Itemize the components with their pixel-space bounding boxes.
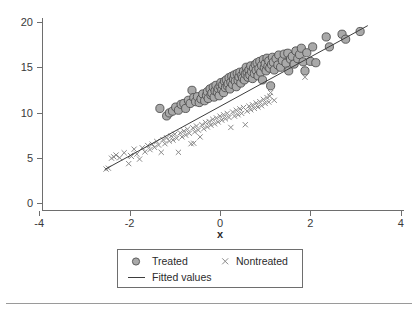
y-axis-ticks: 05101520 <box>21 16 43 209</box>
legend-label-nontreated: Nontreated <box>236 255 288 267</box>
plot-canvas: 05101520 -4-2024 x Treated Nontreated Fi… <box>0 0 418 313</box>
data-point-nontreated <box>268 90 273 95</box>
data-point-treated <box>301 67 309 75</box>
x-tick-label: -4 <box>34 217 44 229</box>
legend-label-fitted-values: Fitted values <box>152 271 212 283</box>
legend-label-treated: Treated <box>152 255 188 267</box>
data-point-treated <box>309 43 317 51</box>
data-point-treated <box>267 82 275 90</box>
data-point-nontreated <box>198 134 203 139</box>
data-point-nontreated <box>109 156 114 161</box>
data-point-nontreated <box>137 157 142 162</box>
data-point-nontreated <box>243 122 248 127</box>
y-tick-label: 5 <box>27 152 33 164</box>
x-tick-label: 4 <box>398 217 404 229</box>
fitted-values-line <box>105 26 368 170</box>
data-point-treated <box>322 33 330 41</box>
x-axis-title: x <box>217 228 224 240</box>
data-point-nontreated <box>167 138 172 143</box>
data-point-nontreated <box>228 125 233 130</box>
data-point-nontreated <box>122 150 127 155</box>
y-tick-label: 10 <box>21 107 33 119</box>
x-tick-label: 2 <box>307 217 313 229</box>
data-point-nontreated <box>132 147 137 152</box>
y-tick-label: 15 <box>21 61 33 73</box>
data-point-nontreated <box>113 152 118 157</box>
y-tick-label: 20 <box>21 16 33 28</box>
legend: Treated Nontreated Fitted values <box>118 250 303 288</box>
x-tick-label: -2 <box>125 217 135 229</box>
data-point-treated <box>312 59 320 67</box>
data-point-treated <box>156 104 164 112</box>
scatter-plot-figure: 05101520 -4-2024 x Treated Nontreated Fi… <box>0 0 418 313</box>
data-point-nontreated <box>117 155 122 160</box>
series-treated-points <box>156 27 364 120</box>
data-point-nontreated <box>126 161 131 166</box>
data-point-nontreated <box>159 150 164 155</box>
circle-marker-icon <box>132 258 139 265</box>
y-tick-label: 0 <box>27 197 33 209</box>
x-axis-ticks: -4-2024 <box>34 211 404 230</box>
data-point-nontreated <box>176 150 181 155</box>
